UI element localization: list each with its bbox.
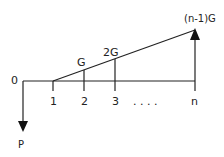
gradient-label-n-1-g: (n-1)G	[184, 13, 216, 24]
origin-label: 0	[11, 74, 18, 87]
arrow-down-icon	[18, 121, 28, 132]
period-label-1: 1	[50, 95, 57, 108]
period-label-3: 3	[112, 95, 119, 108]
cash-flow-diagram: 0 1 2 3 . . . . n G 2G (n-1)G P	[0, 0, 224, 157]
present-value-label: P	[18, 139, 24, 150]
ellipsis: . . . .	[133, 95, 157, 108]
period-label-n: n	[191, 95, 198, 108]
gradient-line	[53, 30, 195, 81]
gradient-label-2g: 2G	[103, 46, 119, 59]
arrow-up-icon	[190, 28, 200, 40]
gradient-label-g: G	[77, 56, 86, 69]
period-label-2: 2	[81, 95, 88, 108]
